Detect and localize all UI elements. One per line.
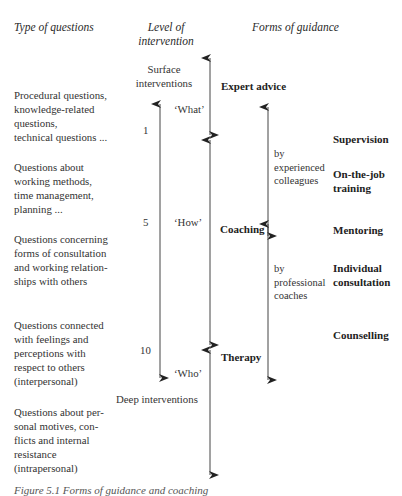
expert-advice-label: Expert advice (221, 79, 286, 93)
level-5: 5 (143, 216, 148, 228)
form-on-the-job-training: On-the-job training (333, 167, 385, 195)
therapy-label: Therapy (221, 350, 261, 364)
deep-interventions-label: Deep interventions (116, 392, 198, 406)
question-working-methods: Questions about working methods, time ma… (14, 160, 94, 216)
form-individual-consultation: Individual consultation (333, 261, 390, 289)
level-10: 10 (140, 344, 151, 356)
question-intrapersonal: Questions about per- sonal motives, con-… (14, 405, 104, 475)
form-supervision: Supervision (333, 132, 389, 146)
surface-interventions-label: Surface interventions (126, 62, 202, 90)
question-consultation: Questions concerning forms of consultati… (14, 232, 108, 288)
coaching-label: Coaching (220, 222, 265, 236)
question-interpersonal: Questions connected with feelings and pe… (14, 318, 104, 388)
question-procedural: Procedural questions, knowledge-related … (14, 88, 107, 144)
by-professional-coaches: by professional coaches (274, 262, 325, 303)
how-label: ‘How’ (174, 216, 202, 228)
by-experienced-colleagues: by experienced colleagues (274, 147, 325, 188)
form-counselling: Counselling (333, 328, 389, 342)
who-label: ‘Who’ (174, 367, 202, 379)
level-1: 1 (143, 124, 148, 136)
what-label: ‘What’ (174, 103, 205, 115)
form-mentoring: Mentoring (333, 223, 383, 237)
figure-caption: Figure 5.1 Forms of guidance and coachin… (14, 484, 208, 496)
